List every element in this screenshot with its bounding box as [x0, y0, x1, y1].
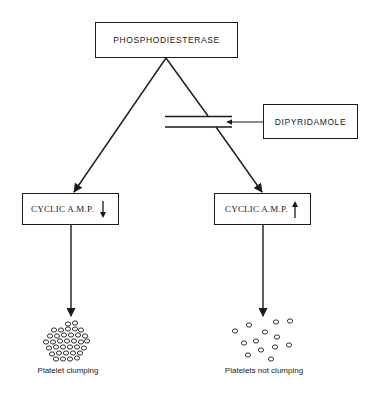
edge-pde-to-barrier: [166, 58, 208, 116]
phosphodiesterase-label: PHOSPHODIESTERASE: [113, 35, 220, 45]
edge-pde-to-camp-low: [74, 58, 166, 192]
edge-barrier-to-camp-high: [216, 127, 262, 192]
phosphodiesterase-node: PHOSPHODIESTERASE: [95, 22, 238, 58]
clustered-platelets-icon: [43, 321, 89, 361]
cyclic-amp-label: CYCLIC A.M.P.: [31, 204, 94, 214]
dipyridamole-node: DIPYRIDAMOLE: [263, 104, 358, 139]
arrow-up-icon: [290, 201, 300, 218]
cyclic-amp-label: CYCLIC A.M.P.: [225, 204, 288, 214]
inhibition-barrier: [165, 117, 232, 128]
scattered-platelets-icon: [232, 319, 292, 361]
platelets-not-clumping-caption: Platelets not clumping: [225, 366, 303, 375]
arrow-down-icon: [98, 201, 108, 218]
cyclic-amp-increased-node: CYCLIC A.M.P.: [214, 193, 311, 225]
platelet-clumping-caption: Platelet clumping: [38, 366, 99, 375]
cyclic-amp-decreased-node: CYCLIC A.M.P.: [22, 193, 119, 225]
dipyridamole-label: DIPYRIDAMOLE: [275, 117, 346, 127]
